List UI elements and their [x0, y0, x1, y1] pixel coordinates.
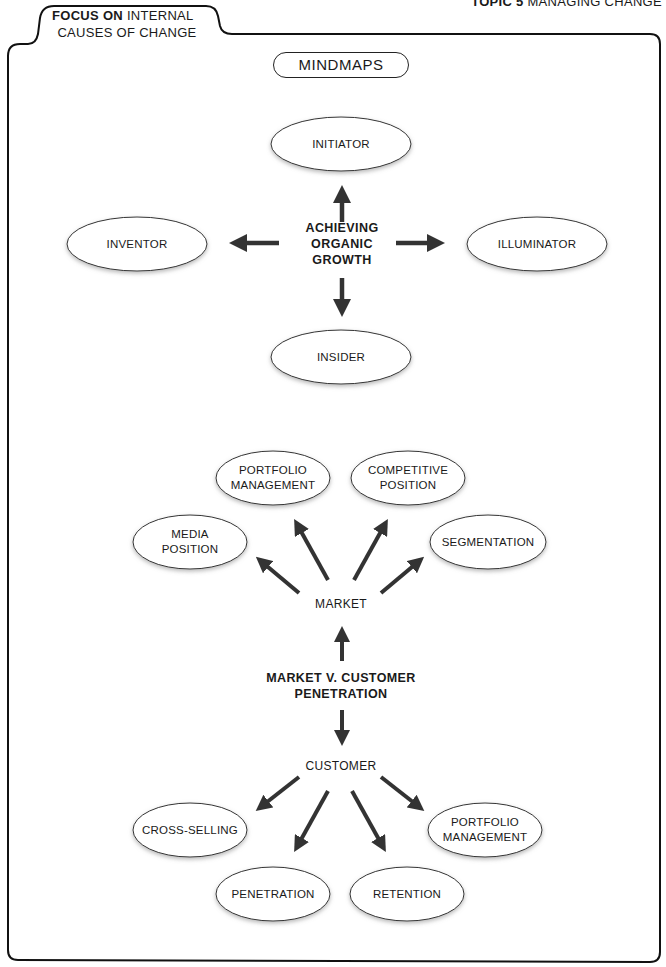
node-insider: INSIDER	[271, 330, 411, 384]
arrow-customer-penetration	[298, 791, 328, 845]
focus-topic-line2: CAUSES OF CHANGE	[52, 24, 202, 41]
node-inventor: INVENTOR	[67, 217, 207, 271]
node-illuminator: ILLUMINATOR	[467, 217, 607, 271]
focus-topic-line1: INTERNAL	[123, 8, 194, 23]
focus-label: FOCUS ON	[52, 8, 123, 23]
center-line-3: GROWTH	[281, 252, 403, 268]
center2-line-2: PENETRATION	[241, 686, 441, 702]
arrow-market-media	[262, 562, 299, 593]
map1-center-label: ACHIEVING ORGANIC GROWTH	[281, 220, 403, 268]
node-competitive-position: COMPETITIVEPOSITION	[351, 451, 465, 505]
center-line-1: ACHIEVING	[281, 220, 403, 236]
node-cross-selling: CROSS-SELLING	[133, 803, 247, 857]
node-portfolio-management-customer: PORTFOLIOMANAGEMENT	[428, 803, 542, 857]
center2-line-1: MARKET V. CUSTOMER	[241, 670, 441, 686]
customer-label: CUSTOMER	[286, 759, 396, 773]
node-initiator: INITIATOR	[271, 117, 411, 171]
mindmaps-title: MINDMAPS	[273, 52, 409, 78]
arrow-market-competitive	[354, 526, 384, 580]
topic-header: TOPIC 5 MANAGING CHANGE	[471, 0, 662, 9]
arrow-customer-retention	[352, 791, 382, 845]
arrow-customer-cross-selling	[262, 777, 299, 806]
arrow-customer-portfolio	[381, 777, 418, 806]
topic-number: TOPIC 5	[471, 0, 523, 9]
map2-center-label: MARKET V. CUSTOMER PENETRATION	[241, 670, 441, 702]
node-retention: RETENTION	[350, 867, 464, 921]
node-penetration: PENETRATION	[216, 867, 330, 921]
arrow-market-portfolio	[298, 526, 328, 580]
topic-title: MANAGING CHANGE	[524, 0, 662, 9]
focus-tab: FOCUS ON INTERNAL CAUSES OF CHANGE	[52, 7, 220, 41]
market-label: MARKET	[291, 597, 391, 611]
node-portfolio-management-market: PORTFOLIOMANAGEMENT	[216, 451, 330, 505]
node-segmentation: SEGMENTATION	[430, 515, 546, 569]
node-media-position: MEDIAPOSITION	[133, 515, 247, 569]
center-line-2: ORGANIC	[281, 236, 403, 252]
arrow-market-segmentation	[381, 562, 418, 593]
